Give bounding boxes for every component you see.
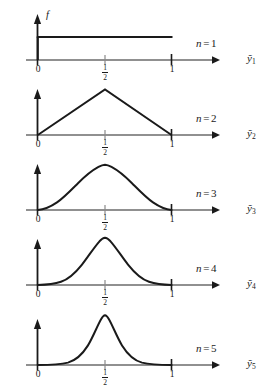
density-curve-n-4 <box>38 238 172 285</box>
n-symbol: n <box>196 187 202 199</box>
tick-label-one-1: 1 <box>165 65 179 75</box>
tick-label-zero-1: 0 <box>31 65 45 75</box>
n-symbol: n <box>196 342 202 354</box>
n-value: 2 <box>211 112 217 124</box>
x-axis-arrow-4 <box>212 281 220 289</box>
equals-sign: = <box>202 342 211 354</box>
density-curve-n-2 <box>38 90 172 136</box>
axis-var-subscript: 4 <box>252 282 256 291</box>
fraction-one-half: 12 <box>102 369 108 386</box>
tick-label-one-3: 1 <box>165 215 179 225</box>
panel-n-1: f n=1 ỹ1 0 12 1 <box>0 0 269 78</box>
y-axis-arrow-1 <box>34 14 41 24</box>
equals-sign: = <box>202 187 211 199</box>
n-value: 1 <box>211 37 217 49</box>
x-axis-arrow-2 <box>212 131 220 139</box>
y-axis-arrow-4 <box>34 239 41 249</box>
n-symbol: n <box>196 112 202 124</box>
axis-var-subscript: 3 <box>252 207 256 216</box>
plot-n-5 <box>0 300 269 378</box>
density-curve-n-5 <box>38 315 172 365</box>
x-axis-arrow-5 <box>212 361 220 369</box>
n-symbol: n <box>196 37 202 49</box>
n-symbol: n <box>196 262 202 274</box>
axis-var-subscript: 1 <box>252 57 256 66</box>
y-axis-arrow-5 <box>34 319 41 329</box>
axis-var-subscript: 2 <box>252 132 256 141</box>
equals-sign: = <box>202 112 211 124</box>
density-curve-n-3 <box>38 165 172 210</box>
panel-n-3: n=3 ỹ3 0 12 1 <box>0 150 269 228</box>
y-axis-arrow-2 <box>34 89 41 99</box>
tick-label-zero-2: 0 <box>31 140 45 150</box>
tick-label-zero-5: 0 <box>31 370 45 380</box>
y-axis-arrow-3 <box>34 164 41 174</box>
tick-label-one-5: 1 <box>165 370 179 380</box>
tick-label-half-5: 12 <box>98 369 112 386</box>
tick-label-one-4: 1 <box>165 290 179 300</box>
tick-label-zero-3: 0 <box>31 215 45 225</box>
equals-sign: = <box>202 262 211 274</box>
n-value: 5 <box>211 342 217 354</box>
y-axis-label: f <box>46 10 49 21</box>
x-axis-arrow-1 <box>212 56 220 64</box>
series-label-n-4: n=4 <box>196 263 217 274</box>
n-value: 4 <box>211 262 217 274</box>
series-label-n-1: n=1 <box>196 38 217 49</box>
series-label-n-2: n=2 <box>196 113 217 124</box>
series-label-n-3: n=3 <box>196 188 217 199</box>
axis-var-subscript: 5 <box>252 362 256 371</box>
tick-label-zero-4: 0 <box>31 290 45 300</box>
panel-n-2: n=2 ỹ2 0 12 1 <box>0 75 269 153</box>
series-label-n-5: n=5 <box>196 343 217 354</box>
tick-label-one-2: 1 <box>165 140 179 150</box>
panel-n-5: n=5 ỹ5 0 12 1 <box>0 300 269 378</box>
density-convergence-figure: f n=1 ỹ1 0 12 1 n=2 ỹ2 0 12 1 <box>0 0 269 391</box>
x-axis-variable-label-4: ỹ4 <box>247 278 256 291</box>
x-axis-variable-label-2: ỹ2 <box>247 128 256 141</box>
equals-sign: = <box>202 37 211 49</box>
x-axis-variable-label-3: ỹ3 <box>247 203 256 216</box>
x-axis-variable-label-1: ỹ1 <box>247 53 256 66</box>
panel-n-4: n=4 ỹ4 0 12 1 <box>0 225 269 303</box>
x-axis-arrow-3 <box>212 206 220 214</box>
x-axis-variable-label-5: ỹ5 <box>247 358 256 371</box>
n-value: 3 <box>211 187 217 199</box>
